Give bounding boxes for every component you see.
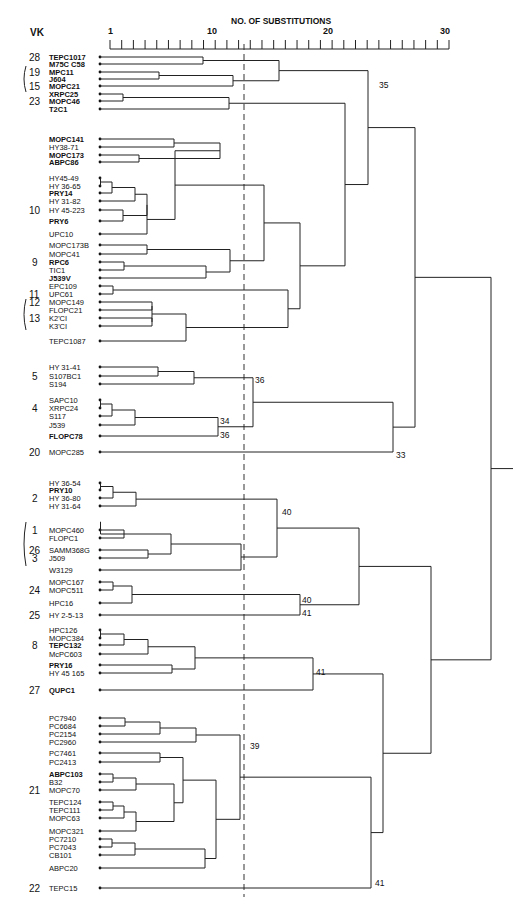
leaf-label: K3'CI (49, 322, 67, 331)
node-distance-label: 39 (250, 741, 260, 751)
axis-title: NO. OF SUBSTITUTIONS (231, 16, 331, 26)
leaf-label: CB101 (49, 851, 72, 860)
leaf-label: UPC10 (49, 230, 73, 239)
node-distance-label: 36 (220, 430, 230, 440)
node-distance-label: 34 (220, 416, 230, 426)
leaf-label: PC2413 (49, 758, 76, 767)
vk-number: 12 (29, 297, 41, 308)
leaf-label: S117 (49, 412, 66, 421)
node-distance-label: 36 (255, 375, 265, 385)
tick-label-30: 30 (440, 26, 450, 36)
leaf-label: PC7461 (49, 749, 76, 758)
leaf-label: TEPC132 (49, 641, 82, 650)
vk-group-numbers: 2819152310911121354202126324258272122 (29, 52, 41, 894)
vk-number: 1 (32, 525, 38, 536)
leaf-label: J509 (49, 554, 65, 563)
vk-brackets (24, 66, 26, 566)
tick-label-1: 1 (108, 26, 113, 36)
vk-number: 8 (32, 640, 38, 651)
vk-column-header: VK (30, 27, 45, 38)
tick-label-10: 10 (207, 26, 217, 36)
vk-number: 5 (32, 371, 38, 382)
node-distance-label: 35 (379, 80, 389, 90)
leaf-label: PRY6 (49, 217, 68, 226)
vk-number: 20 (29, 447, 41, 458)
leaf-label: McPC603 (49, 650, 82, 659)
node-labels: 3536343633404041413941 (220, 80, 406, 888)
vk-number: 13 (29, 313, 41, 324)
leaf-label: S194 (49, 380, 67, 389)
leaf-label: PC2960 (49, 738, 76, 747)
node-distance-label: 40 (302, 595, 312, 605)
vk-number: 22 (29, 883, 41, 894)
vk-number: 15 (29, 81, 41, 92)
vk-number: 9 (32, 257, 38, 268)
node-distance-label: 33 (396, 450, 406, 460)
leaf-label: TEPC1087 (49, 337, 86, 346)
node-distance-label: 41 (375, 878, 385, 888)
vk-number: 4 (32, 403, 38, 414)
node-distance-label: 41 (316, 667, 326, 677)
leaf-label: ABPC20 (49, 864, 78, 873)
leaf-labels: TEPC1017M75C C58MPC11J604MOPC21XRPC25MOP… (49, 53, 101, 893)
vk-number: 28 (29, 52, 41, 63)
leaf-label: T2C1 (49, 105, 67, 114)
vk-bracket (24, 66, 26, 92)
vk-number: 10 (29, 205, 41, 216)
leaf-label: HY 2-5-13 (49, 611, 83, 620)
vk-number: 25 (29, 610, 41, 621)
leaf-label: MOPC63 (49, 814, 80, 823)
leaf-label: ABPC86 (49, 158, 79, 167)
vk-bracket (24, 522, 26, 566)
leaf-label: MOPC285 (49, 448, 84, 457)
vk-number: 19 (29, 67, 41, 78)
dendrogram: NO. OF SUBSTITUTIONS VK 1 10 20 30 TEPC1… (0, 0, 529, 908)
leaf-label: HY 31-64 (49, 502, 81, 511)
leaf-label: HY 45-223 (49, 206, 85, 215)
tick-label-20: 20 (323, 26, 333, 36)
leaf-label: HPC16 (49, 599, 73, 608)
leaf-label: MOPC70 (49, 786, 80, 795)
leaf-label: TEPC15 (49, 884, 77, 893)
vk-number: 24 (29, 585, 41, 596)
node-distance-label: 41 (302, 608, 312, 618)
tree-branches (100, 57, 513, 888)
vk-bracket (24, 299, 26, 330)
leaf-label: MOPC511 (49, 586, 83, 595)
leaf-label: MOPC173B (49, 241, 89, 250)
vk-number: 27 (29, 685, 41, 696)
leaf-label: HY 31-41 (49, 363, 81, 372)
leaf-label: HY 31-82 (49, 197, 81, 206)
leaf-label: FLOPC1 (49, 534, 78, 543)
leaf-label: FLOPC78 (49, 432, 83, 441)
leaf-label: J539 (49, 421, 65, 430)
node-distance-label: 40 (282, 507, 292, 517)
leaf-label: HY 45 165 (49, 669, 84, 678)
axis: 1 10 20 30 (108, 26, 450, 49)
leaf-label: QUPC1 (49, 686, 75, 695)
vk-number: 23 (29, 96, 41, 107)
leaf-label: W3129 (49, 566, 73, 575)
vk-number: 2 (32, 493, 38, 504)
vk-number: 21 (29, 785, 41, 796)
vk-number: 3 (32, 553, 38, 564)
axis-ticks (110, 40, 449, 49)
